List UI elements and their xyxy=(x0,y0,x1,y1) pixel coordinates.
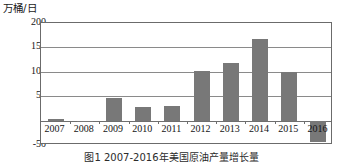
bar-2010 xyxy=(135,107,151,121)
x-tick-label-2011: 2011 xyxy=(157,123,186,134)
bar-2014 xyxy=(252,39,268,121)
bar-2009 xyxy=(106,98,122,121)
x-tick-label-2014: 2014 xyxy=(244,123,273,134)
figure-caption: 图1 2007-2016年美国原油产量增长量 xyxy=(0,152,343,162)
x-tick-label-2009: 2009 xyxy=(98,123,127,134)
y-axis-unit-label: 万桶/日 xyxy=(3,2,37,15)
x-tick-label-2010: 2010 xyxy=(128,123,157,134)
gridline-150 xyxy=(41,47,331,48)
x-tick-label-2008: 2008 xyxy=(69,123,98,134)
bar-chart: 万桶/日 200150100500-50 2007200820092010201… xyxy=(0,0,343,162)
bar-2007 xyxy=(48,119,64,121)
bar-2015 xyxy=(281,72,297,121)
bar-2013 xyxy=(223,63,239,121)
x-tick-label-2015: 2015 xyxy=(274,123,303,134)
bar-2012 xyxy=(194,71,210,121)
x-tick-label-2007: 2007 xyxy=(40,123,69,134)
x-tick-label-2012: 2012 xyxy=(186,123,215,134)
x-tick-label-2016: 2016 xyxy=(303,123,332,134)
x-tick-label-2013: 2013 xyxy=(215,123,244,134)
bar-2011 xyxy=(164,106,180,121)
